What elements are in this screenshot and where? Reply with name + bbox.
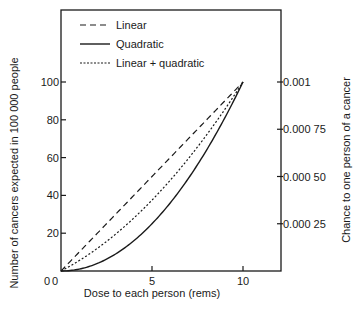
y2-tick-label: 0.000 25	[283, 218, 326, 230]
y-axis-right: 0.000 250.000 500.000 750.001	[277, 76, 326, 230]
legend: LinearQuadraticLinear + quadratic	[80, 19, 205, 69]
x-tick-label: 5	[149, 275, 155, 287]
x-tick-label: 10	[237, 275, 249, 287]
y2-tick-label: 0.000 75	[283, 123, 326, 135]
y2-tick-label: 0.001	[283, 76, 311, 88]
series-linear	[61, 82, 243, 271]
y-tick-label: 60	[47, 152, 59, 164]
x-tick-label: 0	[52, 275, 58, 287]
data-series	[61, 82, 243, 271]
plot-border	[61, 10, 281, 271]
y-tick-label: 80	[47, 114, 59, 126]
legend-label: Linear	[116, 19, 147, 31]
legend-label: Quadratic	[116, 38, 164, 50]
y-axis-title: Number of cancers expected in 100 000 pe…	[8, 57, 20, 288]
y2-axis-title: Chance to one person of a cancer	[340, 77, 352, 243]
chart: 0510 020406080100 0.000 250.000 500.000 …	[0, 0, 364, 309]
plot-frame	[61, 10, 281, 271]
y-tick-label: 100	[41, 76, 59, 88]
y-tick-label: 0	[44, 275, 50, 287]
legend-label: Linear + quadratic	[116, 57, 205, 69]
y-tick-label: 40	[47, 189, 59, 201]
y-axis-left: 020406080100	[41, 76, 66, 287]
x-axis-title: Dose to each person (rems)	[84, 287, 220, 299]
y2-tick-label: 0.000 50	[283, 171, 326, 183]
y-tick-label: 20	[47, 227, 59, 239]
